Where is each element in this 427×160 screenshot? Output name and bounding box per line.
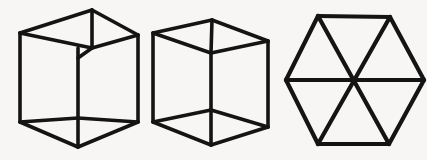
- geometric-figures-svg: [0, 0, 427, 160]
- hexagon-six-triangles-outline-top: [318, 16, 390, 17]
- necker-cube-right-inner-vertical-upper: [211, 20, 212, 53]
- figure-canvas: [0, 0, 427, 160]
